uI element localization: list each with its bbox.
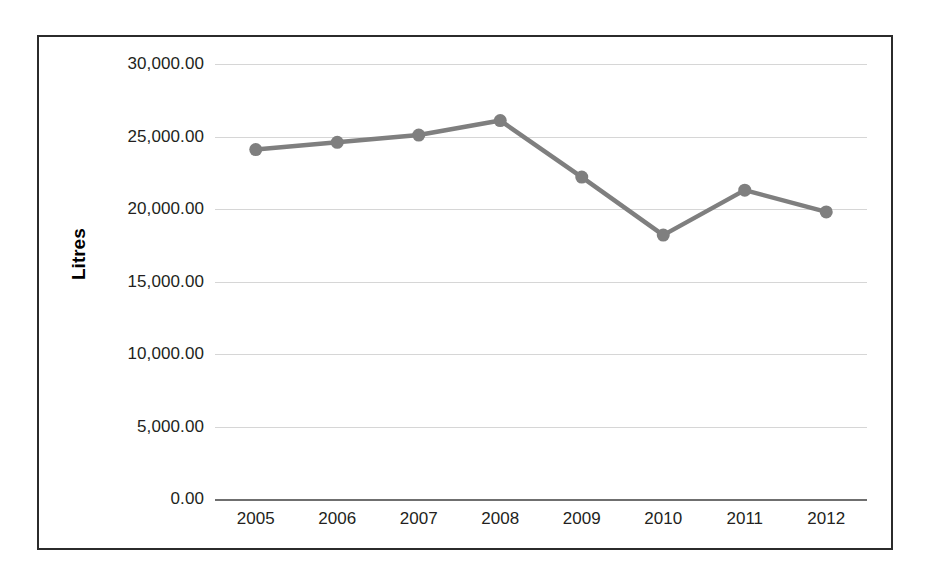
x-axis-tick-label: 2007 [400, 509, 438, 529]
y-axis-tick-label: 30,000.00 [127, 54, 204, 74]
line-series [215, 64, 867, 499]
data-point-marker[interactable] [331, 136, 344, 149]
x-axis-tick-label: 2012 [807, 509, 845, 529]
y-axis-tick-label: 10,000.00 [127, 344, 204, 364]
x-axis-tick-label: 2009 [563, 509, 601, 529]
data-point-marker[interactable] [494, 114, 507, 127]
x-axis-tick-label: 2010 [644, 509, 682, 529]
x-axis-tick-label: 2006 [318, 509, 356, 529]
data-point-marker[interactable] [575, 171, 588, 184]
data-point-marker[interactable] [738, 184, 751, 197]
x-axis-tick-labels: 20052006200720082009201020112012 [215, 509, 867, 539]
plot-area [215, 64, 867, 499]
y-axis-tick-label: 5,000.00 [137, 417, 204, 437]
y-axis-tick-label: 25,000.00 [127, 127, 204, 147]
y-axis-tick-label: 15,000.00 [127, 272, 204, 292]
x-axis-tick-label: 2005 [237, 509, 275, 529]
x-axis-line [215, 499, 867, 501]
data-point-marker[interactable] [249, 143, 262, 156]
x-axis-tick-label: 2008 [481, 509, 519, 529]
x-axis-tick-label: 2011 [726, 509, 763, 529]
y-axis-tick-label: 20,000.00 [127, 199, 204, 219]
chart-frame: Litres 0.005,000.0010,000.0015,000.0020,… [37, 35, 893, 550]
data-point-marker[interactable] [657, 229, 670, 242]
data-point-marker[interactable] [820, 205, 833, 218]
y-axis-tick-labels: 0.005,000.0010,000.0015,000.0020,000.002… [39, 37, 204, 552]
y-axis-tick-label: 0.00 [171, 489, 205, 509]
data-point-marker[interactable] [412, 129, 425, 142]
